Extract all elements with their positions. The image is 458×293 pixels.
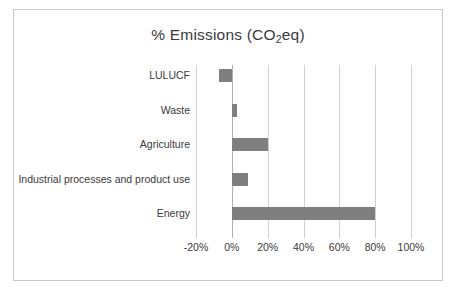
- category-label-energy: Energy: [157, 207, 190, 220]
- chart-container: % Emissions (CO2eq) LULUCF Waste Agricul…: [13, 9, 443, 281]
- category-label-agriculture: Agriculture: [140, 138, 190, 151]
- category-label-waste: Waste: [161, 104, 190, 117]
- bar-row: Agriculture: [196, 138, 411, 151]
- bar-row: Waste: [196, 104, 411, 117]
- bar-row: Industrial processes and product use: [196, 173, 411, 186]
- bar-agriculture[interactable]: [232, 138, 268, 151]
- xtick-label-0: 0%: [224, 241, 239, 253]
- bar-row: LULUCF: [196, 69, 411, 82]
- chart-title-tail: eq): [282, 26, 305, 43]
- category-label-lulucf: LULUCF: [149, 69, 190, 82]
- chart-title-subscript: 2: [276, 33, 282, 45]
- xtick-label-20: 20%: [257, 241, 278, 253]
- bar-lulucf[interactable]: [219, 69, 232, 82]
- chart-title-main: % Emissions (CO: [151, 26, 275, 43]
- xtick-label-100: 100%: [398, 241, 425, 253]
- xtick-label-80: 80%: [365, 241, 386, 253]
- chart-title: % Emissions (CO2eq): [14, 26, 442, 44]
- xtick-label-40: 40%: [293, 241, 314, 253]
- bar-industrial-processes-and-product-use[interactable]: [232, 173, 248, 186]
- category-label-industrial-processes-and-product-use: Industrial processes and product use: [18, 173, 190, 186]
- gridline-100: [411, 65, 412, 238]
- xtick-label-60: 60%: [329, 241, 350, 253]
- bar-energy[interactable]: [232, 207, 375, 220]
- plot-area: LULUCF Waste Agriculture Industrial proc…: [196, 65, 411, 238]
- bar-row: Energy: [196, 207, 411, 220]
- bar-waste[interactable]: [232, 104, 237, 117]
- xtick-label--20: -20%: [184, 241, 209, 253]
